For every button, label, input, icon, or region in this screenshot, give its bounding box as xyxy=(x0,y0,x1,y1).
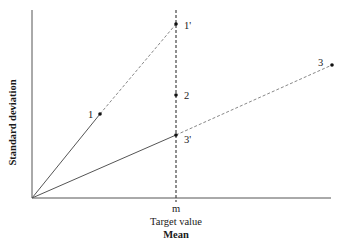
point-2 xyxy=(174,93,178,97)
point-1prime xyxy=(174,22,178,26)
solid-line-origin-to-3prime xyxy=(32,135,176,198)
label-point-1: 1 xyxy=(88,109,93,120)
y-axis-title: Standard deviation xyxy=(7,79,18,165)
label-point-2: 2 xyxy=(184,90,189,101)
diagram-canvas: 1 1' 2 3 3' m Target value Mean Standard… xyxy=(0,0,342,251)
target-tick-label: m xyxy=(172,203,180,214)
dashed-line-1-to-1prime xyxy=(100,24,176,114)
target-value-label: Target value xyxy=(150,216,202,227)
label-point-3: 3 xyxy=(318,57,323,68)
dashed-line-3prime-to-3 xyxy=(176,65,332,135)
label-point-1prime: 1' xyxy=(184,20,191,31)
y-axis-title-container: Standard deviation xyxy=(4,55,20,190)
point-1 xyxy=(98,112,102,116)
point-3 xyxy=(330,63,334,67)
point-3prime xyxy=(174,133,178,137)
solid-line-origin-to-1 xyxy=(32,114,100,198)
x-axis-title: Mean xyxy=(163,229,189,240)
label-point-3prime: 3' xyxy=(184,134,191,145)
diagram-svg: 1 1' 2 3 3' m Target value Mean xyxy=(0,0,342,251)
